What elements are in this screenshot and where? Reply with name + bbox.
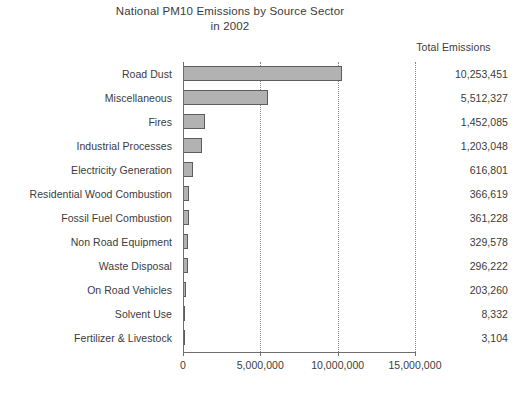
chart-row: Fossil Fuel Combustion361,228: [0, 206, 515, 230]
bar: [183, 90, 268, 105]
category-label: Residential Wood Combustion: [0, 182, 172, 206]
bar-cell: [183, 86, 415, 110]
chart-row: Fires1,452,085: [0, 110, 515, 134]
x-tick-10000000: [338, 352, 339, 356]
chart-row: Industrial Processes1,203,048: [0, 134, 515, 158]
category-label: Solvent Use: [0, 302, 172, 326]
category-label: Industrial Processes: [0, 134, 172, 158]
chart-row: Miscellaneous5,512,327: [0, 86, 515, 110]
value-label: 203,260: [396, 278, 508, 302]
chart-subtitle: in 2002: [0, 19, 460, 34]
bar-cell: [183, 158, 415, 182]
x-axis-line: [183, 352, 416, 353]
category-label: On Road Vehicles: [0, 278, 172, 302]
chart-row: Electricity Generation616,801: [0, 158, 515, 182]
x-tick-0: [183, 352, 184, 356]
category-label: Non Road Equipment: [0, 230, 172, 254]
bar-cell: [183, 278, 415, 302]
value-label: 361,228: [396, 206, 508, 230]
bar-cell: [183, 326, 415, 350]
chart-row: Solvent Use8,332: [0, 302, 515, 326]
value-label: 616,801: [396, 158, 508, 182]
value-label: 329,578: [396, 230, 508, 254]
category-label: Fossil Fuel Combustion: [0, 206, 172, 230]
pm10-emissions-bar-chart: National PM10 Emissions by Source Sector…: [0, 0, 515, 397]
x-tick-label: 15,000,000: [370, 359, 460, 371]
value-label: 1,452,085: [396, 110, 508, 134]
chart-row: Non Road Equipment329,578: [0, 230, 515, 254]
bar-cell: [183, 110, 415, 134]
chart-row: On Road Vehicles203,260: [0, 278, 515, 302]
value-label: 1,203,048: [396, 134, 508, 158]
bar: [183, 114, 205, 129]
value-label: 3,104: [396, 326, 508, 350]
chart-rows: Road Dust10,253,451Miscellaneous5,512,32…: [0, 62, 515, 350]
x-tick-15000000: [415, 352, 416, 356]
bar-cell: [183, 182, 415, 206]
value-label: 10,253,451: [396, 62, 508, 86]
category-label: Road Dust: [0, 62, 172, 86]
total-emissions-column-header: Total Emissions: [396, 41, 511, 53]
bar-cell: [183, 62, 415, 86]
category-label: Miscellaneous: [0, 86, 172, 110]
chart-title-block: National PM10 Emissions by Source Sector…: [0, 4, 460, 34]
bar: [183, 162, 193, 177]
chart-title: National PM10 Emissions by Source Sector: [0, 4, 460, 19]
bar-cell: [183, 254, 415, 278]
bar-cell: [183, 134, 415, 158]
value-label: 5,512,327: [396, 86, 508, 110]
category-label: Fires: [0, 110, 172, 134]
chart-row: Fertilizer & Livestock3,104: [0, 326, 515, 350]
category-label: Electricity Generation: [0, 158, 172, 182]
x-tick-5000000: [260, 352, 261, 356]
chart-row: Residential Wood Combustion366,619: [0, 182, 515, 206]
category-label: Fertilizer & Livestock: [0, 326, 172, 350]
bar-cell: [183, 302, 415, 326]
bar-cell: [183, 230, 415, 254]
value-label: 296,222: [396, 254, 508, 278]
bar: [183, 138, 202, 153]
chart-row: Road Dust10,253,451: [0, 62, 515, 86]
y-axis-line: [183, 62, 184, 353]
chart-row: Waste Disposal296,222: [0, 254, 515, 278]
bar: [183, 66, 342, 81]
bar-cell: [183, 206, 415, 230]
value-label: 366,619: [396, 182, 508, 206]
value-label: 8,332: [396, 302, 508, 326]
category-label: Waste Disposal: [0, 254, 172, 278]
